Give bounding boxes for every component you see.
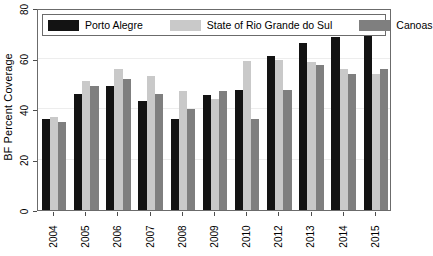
x-axis-tick-label: 2007 [143, 218, 157, 254]
bar[interactable] [147, 76, 155, 210]
y-axis-title: BF Percent Coverage [0, 0, 16, 213]
x-axis-tick-value: 2004 [48, 225, 59, 247]
x-axis-tick-mark [150, 212, 151, 216]
legend-item-state-of-rio-grande-do-sul[interactable]: State of Rio Grande do Sul [165, 15, 333, 35]
x-axis-tick-mark [214, 212, 215, 216]
y-axis-tick-label: 0 [17, 205, 33, 217]
x-axis-tick-value: 2006 [112, 225, 123, 247]
x-axis-tick-label: 2006 [110, 218, 124, 254]
bar[interactable] [171, 119, 179, 210]
bar-group [295, 10, 327, 210]
bar[interactable] [364, 29, 372, 210]
bar[interactable] [340, 69, 348, 210]
bar[interactable] [203, 95, 211, 210]
x-axis-tick-label: 2009 [207, 218, 221, 254]
y-axis-tick-label: 80 [17, 3, 33, 15]
bar[interactable] [307, 62, 315, 210]
x-axis-tick-value: 2005 [80, 225, 91, 247]
x-axis-tick-value: 2015 [369, 225, 380, 247]
x-axis-tick-value: 2013 [305, 225, 316, 247]
legend-label: Porto Alegre [85, 19, 143, 31]
y-axis-tick-value: 40 [20, 104, 31, 115]
bar-group [167, 10, 199, 210]
bar[interactable] [123, 79, 131, 210]
bar[interactable] [179, 91, 187, 210]
bar[interactable] [283, 90, 291, 210]
legend-item-porto-alegre[interactable]: Porto Alegre [43, 15, 143, 35]
x-axis-tick-value: 2008 [176, 225, 187, 247]
x-axis-tick-value: 2007 [144, 225, 155, 247]
x-axis-tick-label: 2010 [239, 218, 253, 254]
x-axis-tick-value: 2009 [209, 225, 220, 247]
bar[interactable] [331, 37, 339, 210]
y-axis-tick-value: 60 [20, 54, 31, 65]
x-axis-tick-label: 2004 [46, 218, 60, 254]
bar[interactable] [299, 43, 307, 210]
x-axis-tick-mark [117, 212, 118, 216]
bar-group [135, 10, 167, 210]
bar-group [231, 10, 263, 210]
bar[interactable] [58, 122, 66, 210]
x-axis-tick-mark [278, 212, 279, 216]
bar[interactable] [155, 94, 163, 210]
bar[interactable] [74, 94, 82, 210]
x-axis-tick-label: 2013 [304, 218, 318, 254]
x-axis-tick-mark [311, 212, 312, 216]
x-axis-tick-label: 2008 [175, 218, 189, 254]
x-axis-tick-label: 2014 [336, 218, 350, 254]
bar[interactable] [90, 86, 98, 210]
legend-swatch-icon [170, 20, 201, 31]
bar[interactable] [243, 61, 251, 210]
bar[interactable] [316, 65, 324, 210]
x-axis-tick-label: 2005 [78, 218, 92, 254]
y-axis-tick-label: 60 [17, 54, 33, 66]
x-axis-tick-mark [246, 212, 247, 216]
y-axis-tick-mark [33, 161, 37, 162]
x-axis-tick-mark [343, 212, 344, 216]
y-axis-tick-value: 20 [20, 155, 31, 166]
bar[interactable] [219, 91, 227, 210]
bar[interactable] [138, 101, 146, 210]
bar[interactable] [82, 81, 90, 210]
y-axis-tick-mark [33, 9, 37, 10]
bar-group [38, 10, 70, 210]
bar[interactable] [42, 119, 50, 210]
chart-legend: Porto AlegreState of Rio Grande do SulCa… [42, 14, 386, 36]
bar[interactable] [275, 60, 283, 210]
y-axis-tick-label: 40 [17, 104, 33, 116]
bar[interactable] [50, 117, 58, 210]
bar[interactable] [106, 86, 114, 210]
plot-area [37, 9, 391, 211]
y-axis-tick-value: 0 [20, 208, 31, 214]
x-axis-tick-label: 2012 [271, 218, 285, 254]
legend-label: State of Rio Grande do Sul [207, 19, 333, 31]
bar-series-container [38, 10, 390, 210]
bar-group [263, 10, 295, 210]
x-axis-tick-mark [53, 212, 54, 216]
bar-group [199, 10, 231, 210]
x-axis-tick-value: 2014 [337, 225, 348, 247]
y-axis-tick-value: 80 [20, 3, 31, 14]
y-axis-tick-mark [33, 211, 37, 212]
y-axis-tick-mark [33, 110, 37, 111]
bar[interactable] [348, 74, 356, 210]
bar[interactable] [372, 74, 380, 210]
y-axis-tick-mark [33, 60, 37, 61]
bar[interactable] [235, 90, 243, 210]
y-axis-tick-labels: 020406080 [17, 0, 33, 213]
bar[interactable] [267, 56, 275, 210]
bar[interactable] [380, 69, 388, 210]
x-axis-tick-mark [85, 212, 86, 216]
bar-group [70, 10, 102, 210]
legend-swatch-icon [359, 20, 390, 31]
bar[interactable] [114, 69, 122, 210]
bar[interactable] [187, 109, 195, 210]
bar[interactable] [211, 99, 219, 210]
bar[interactable] [251, 119, 259, 210]
x-axis-tick-value: 2010 [241, 225, 252, 247]
legend-item-canoas[interactable]: Canoas [354, 15, 432, 35]
x-axis-tick-label: 2015 [368, 218, 382, 254]
x-axis-tick-labels: 2004200520062007200820092010201220132014… [37, 212, 391, 256]
x-axis-tick-value: 2012 [273, 225, 284, 247]
